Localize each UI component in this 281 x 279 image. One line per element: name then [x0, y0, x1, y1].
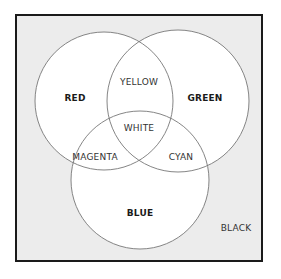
- label-green: GREEN: [187, 93, 222, 103]
- label-white: WHITE: [124, 123, 155, 133]
- label-cyan: CYAN: [169, 152, 194, 162]
- label-black: BLACK: [221, 223, 252, 233]
- venn-diagram: [0, 0, 281, 279]
- label-red: RED: [64, 93, 85, 103]
- label-yellow: YELLOW: [120, 77, 158, 87]
- label-blue: BLUE: [127, 208, 154, 218]
- label-magenta: MAGENTA: [72, 152, 118, 162]
